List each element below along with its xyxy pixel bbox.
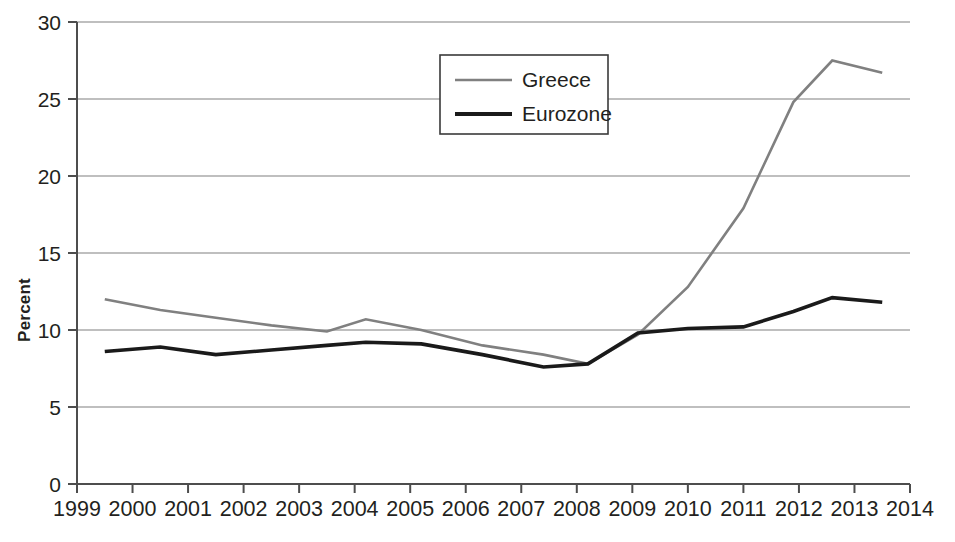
x-tick-label-2005: 2005 <box>386 497 434 521</box>
y-axis-ticks: 051015202530 <box>38 11 77 496</box>
x-tick-label-2010: 2010 <box>664 497 712 521</box>
y-tick-label-30: 30 <box>38 11 61 34</box>
x-tick-label-2012: 2012 <box>775 497 823 521</box>
y-tick-label-0: 0 <box>49 473 61 496</box>
x-tick-label-2000: 2000 <box>109 497 157 521</box>
unemployment-line-chart: 051015202530 199920002001200220032004200… <box>0 0 955 542</box>
chart-container: 051015202530 199920002001200220032004200… <box>0 0 955 542</box>
x-tick-label-1999: 1999 <box>53 497 101 521</box>
x-tick-label-2002: 2002 <box>220 497 268 521</box>
x-tick-label-2001: 2001 <box>164 497 212 521</box>
y-axis-title: Percent <box>15 278 34 342</box>
x-tick-label-2011: 2011 <box>720 497 766 521</box>
y-tick-label-20: 20 <box>38 165 61 188</box>
x-tick-label-2004: 2004 <box>331 497 379 521</box>
x-tick-label-2014: 2014 <box>886 497 934 521</box>
series-line-eurozone <box>105 298 882 367</box>
x-tick-label-2013: 2013 <box>831 497 879 521</box>
x-tick-label-2006: 2006 <box>442 497 490 521</box>
legend-label-eurozone: Eurozone <box>522 102 612 125</box>
legend-label-greece: Greece <box>522 68 591 91</box>
y-tick-label-15: 15 <box>38 242 61 265</box>
chart-legend: Greece Eurozone <box>440 55 612 134</box>
y-tick-label-10: 10 <box>38 319 61 342</box>
x-axis-ticks: 1999200020012002200320042005200620072008… <box>53 484 934 521</box>
x-tick-label-2008: 2008 <box>553 497 601 521</box>
x-tick-label-2009: 2009 <box>608 497 656 521</box>
y-tick-label-5: 5 <box>49 396 61 419</box>
y-tick-label-25: 25 <box>38 88 61 111</box>
x-tick-label-2003: 2003 <box>275 497 323 521</box>
x-tick-label-2007: 2007 <box>497 497 545 521</box>
